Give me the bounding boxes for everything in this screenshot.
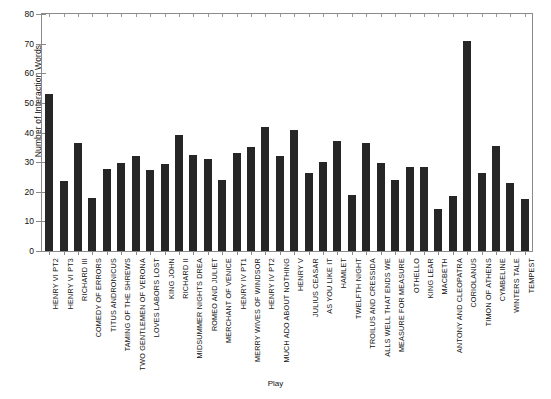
x-axis-tick-label: ANTONY AND CLEOPATRA — [455, 258, 464, 353]
x-axis-tick-top — [49, 14, 50, 17]
x-axis-tick-label: ROMEO AND JULIET — [210, 258, 219, 331]
bar — [117, 163, 125, 251]
x-axis-tick-label: WINTERS TALE — [512, 258, 521, 313]
bar — [247, 147, 255, 251]
x-axis-tick-label: TAMING OF THE SHREWS — [123, 258, 132, 351]
x-axis-tick-top — [424, 14, 425, 17]
bar — [218, 180, 226, 251]
y-axis-tick-label: 20 — [25, 187, 34, 197]
bar — [420, 167, 428, 251]
x-axis-title: Play — [0, 379, 551, 388]
y-axis-tick-inner — [42, 14, 46, 15]
bar — [377, 163, 385, 251]
bar — [506, 183, 514, 251]
bar — [348, 195, 356, 251]
x-axis-tick-top — [366, 14, 367, 17]
x-axis-tick-top — [294, 14, 295, 17]
x-axis-tick-top — [193, 14, 194, 17]
x-axis-tick-top — [150, 14, 151, 17]
x-axis-tick-label: MEASURE FOR MEASURE — [397, 258, 406, 352]
x-axis-tick-top — [78, 14, 79, 17]
bar-chart-figure: Number of Interaction Words 010203040506… — [0, 0, 551, 399]
bar — [74, 143, 82, 251]
x-axis-tick-top — [438, 14, 439, 17]
bar — [204, 159, 212, 251]
x-axis-tick-label: CYMBELINE — [498, 258, 507, 301]
x-axis-tick-top — [251, 14, 252, 17]
x-axis-tick-label: JULIUS CEASAR — [311, 258, 320, 317]
y-axis-tick-label: 80 — [25, 9, 34, 19]
x-axis-tick-labels: HENRY VI PT2HENRY VI PT3RICHARD IIICOMED… — [41, 252, 533, 377]
x-axis-tick-top — [410, 14, 411, 17]
x-axis-tick-label: COMEDY OF ERRORS — [94, 258, 103, 337]
bar — [189, 155, 197, 251]
x-axis-tick-label: TIMON OF ATHENS — [484, 258, 493, 326]
x-axis-tick-label: TITUS ANDRONICUS — [109, 258, 118, 332]
bar — [434, 209, 442, 251]
x-axis-tick-top — [525, 14, 526, 17]
x-axis-tick-top — [395, 14, 396, 17]
x-axis-tick-top — [121, 14, 122, 17]
x-axis-tick-top — [280, 14, 281, 17]
x-axis-tick-label: MUCH ADO ABOUT NOTHING — [282, 258, 291, 363]
x-axis-tick-label: AS YOU LIKE IT — [325, 258, 334, 314]
x-axis-tick-top — [265, 14, 266, 17]
x-axis-tick-top — [496, 14, 497, 17]
x-axis-tick-top — [208, 14, 209, 17]
x-axis-tick-label: HENRY VI PT2 — [51, 258, 60, 309]
y-axis-tick-label: 30 — [25, 157, 34, 167]
bar — [492, 146, 500, 251]
bar — [305, 173, 313, 252]
x-axis-tick-top — [309, 14, 310, 17]
bar — [60, 181, 68, 251]
x-axis-tick-top — [323, 14, 324, 17]
x-axis-tick-top — [337, 14, 338, 17]
x-axis-tick-label: HENRY IV PT1 — [239, 258, 248, 309]
x-axis-tick-label: KING JOHN — [167, 258, 176, 299]
x-axis-tick-top — [467, 14, 468, 17]
bar — [463, 41, 471, 251]
x-axis-tick-top — [237, 14, 238, 17]
bar — [521, 199, 529, 251]
bar — [449, 196, 457, 251]
bar — [478, 173, 486, 252]
x-axis-tick-label: RICHARD II — [181, 258, 190, 299]
y-axis-tick-label: 10 — [25, 216, 34, 226]
x-axis-tick-label: HENRY V — [296, 258, 305, 291]
y-axis-tick-label: 40 — [25, 128, 34, 138]
x-axis-tick-top — [453, 14, 454, 17]
x-axis-tick-top — [222, 14, 223, 17]
y-axis-tick-inner — [42, 44, 46, 45]
bar — [103, 169, 111, 251]
bar — [319, 162, 327, 251]
x-axis-tick-label: MACBETH — [440, 258, 449, 295]
x-axis-tick-label: CORIOLANUS — [469, 258, 478, 308]
x-axis-tick-top — [179, 14, 180, 17]
y-axis-tick-label: 0 — [29, 246, 34, 256]
x-axis-tick-label: HENRY IV PT2 — [267, 258, 276, 309]
bar — [45, 94, 53, 251]
x-axis-tick-label: LOVES LABORS LOST — [152, 258, 161, 337]
x-axis-tick-label: KING LEAR — [426, 258, 435, 298]
bar — [161, 164, 169, 251]
x-axis-tick-label: ALLS WELL THAT ENDS WE — [383, 258, 392, 357]
x-axis-tick-top — [482, 14, 483, 17]
bar — [175, 135, 183, 251]
x-axis-tick-top — [165, 14, 166, 17]
x-axis-tick-label: MERRY WIVES OF WINDSOR — [253, 258, 262, 362]
bar — [276, 156, 284, 251]
plot-area: 01020304050607080 — [41, 13, 533, 252]
x-axis-tick-label: MIDSUMMER NIGHTS DREA — [195, 258, 204, 358]
x-axis-tick-label: HENRY VI PT3 — [66, 258, 75, 309]
plot-inner: 01020304050607080 — [42, 14, 532, 251]
x-axis-tick-label: TWELFTH NIGHT — [354, 258, 363, 319]
x-axis-tick-top — [64, 14, 65, 17]
x-axis-tick-label: HAMLET — [339, 258, 348, 288]
x-axis-tick-top — [352, 14, 353, 17]
bar — [391, 180, 399, 251]
bar — [362, 143, 370, 251]
x-axis-tick-label: MERCHANT OF VENICE — [224, 258, 233, 343]
y-axis-tick-label: 70 — [25, 39, 34, 49]
y-axis-tick-label: 50 — [25, 98, 34, 108]
bar — [88, 198, 96, 251]
